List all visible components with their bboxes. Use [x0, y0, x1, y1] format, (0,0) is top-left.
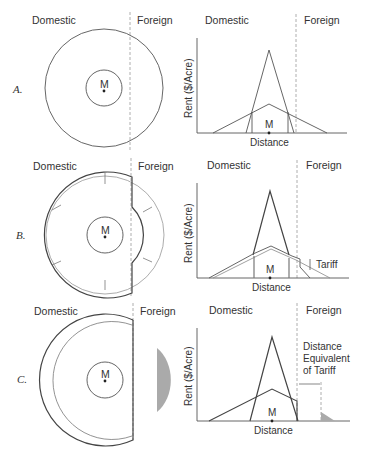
domestic-rent-curve	[209, 389, 297, 421]
new-boundary	[40, 314, 133, 446]
x-axis-label: Distance	[252, 282, 291, 293]
market-dot	[103, 90, 106, 93]
foreign-production-area	[157, 348, 171, 412]
market-dot	[268, 132, 271, 135]
tariff-label: Tariff	[316, 259, 338, 270]
panel-a-letter: A.	[12, 83, 22, 95]
chart-b-foreign-label: Foreign	[306, 159, 342, 171]
chart-market-label: M	[268, 407, 276, 418]
new-boundary	[44, 172, 143, 298]
y-axis-label: Rent ($/Acre)	[183, 204, 194, 263]
steep-rent-curve	[253, 191, 289, 255]
panel-a: Domestic Foreign M A. Domestic Foreign M…	[12, 12, 347, 150]
panel-b-letter: B.	[16, 229, 25, 241]
panel-c-domestic-label: Domestic	[34, 305, 78, 317]
chart-market-label: M	[266, 264, 274, 275]
panel-b: Domestic Foreign M B. Domestic Foreign T…	[16, 158, 349, 298]
panel-a-foreign-label: Foreign	[137, 14, 173, 26]
market-dot	[269, 277, 272, 280]
chart-b-domestic-label: Domestic	[207, 159, 251, 171]
original-ring	[53, 322, 132, 440]
chart-c-domestic-label: Domestic	[209, 304, 253, 316]
market-dot	[271, 420, 274, 423]
chart-a-domestic-label: Domestic	[205, 14, 249, 26]
chart-c-foreign-label: Foreign	[306, 304, 342, 316]
market-label: M	[101, 224, 110, 236]
panel-a-domestic-label: Domestic	[32, 14, 76, 26]
foreign-rent-area	[321, 412, 335, 421]
x-axis-label: Distance	[254, 425, 293, 436]
panel-b-domestic-label: Domestic	[33, 160, 77, 172]
panel-c-foreign-label: Foreign	[140, 305, 176, 317]
market-label: M	[100, 78, 109, 90]
y-axis-label: Rent ($/Acre)	[183, 59, 194, 118]
panel-c-letter: C.	[17, 373, 27, 385]
annotation-line-2: Equivalent	[303, 353, 350, 364]
panel-c: Domestic Foreign M C. Domestic Foreign D…	[17, 303, 350, 446]
market-dot	[104, 236, 107, 239]
market-label: M	[101, 368, 110, 380]
tariff-diagram: Domestic Foreign M A. Domestic Foreign M…	[0, 0, 367, 456]
panel-b-foreign-label: Foreign	[138, 160, 174, 172]
annotation-line-1: Distance	[303, 341, 342, 352]
annotation-line-3: of Tariff	[303, 365, 336, 376]
chart-market-label: M	[265, 119, 273, 130]
chart-a-foreign-label: Foreign	[304, 14, 340, 26]
domestic-rent-curve	[209, 246, 310, 278]
x-axis-label: Distance	[250, 137, 289, 148]
y-axis-label: Rent ($/Acre)	[183, 347, 194, 406]
market-dot	[104, 380, 107, 383]
